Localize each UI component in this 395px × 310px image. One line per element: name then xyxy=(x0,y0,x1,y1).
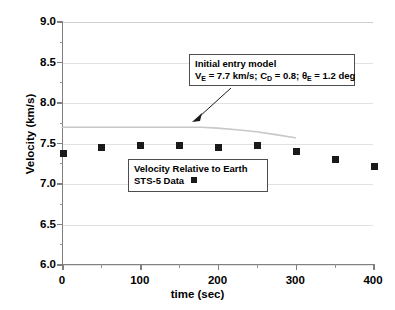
y-tick-label: 6.5 xyxy=(10,218,56,230)
x-tick-label: 300 xyxy=(265,274,325,286)
y-tick-minor xyxy=(60,163,64,164)
data-point xyxy=(215,144,222,151)
gridline-y xyxy=(63,103,373,104)
y-tick xyxy=(57,21,63,23)
data-point xyxy=(60,150,67,157)
y-tick-label: 6.0 xyxy=(10,258,56,270)
y-tick-label: 9.0 xyxy=(10,15,56,27)
data-point xyxy=(176,142,183,149)
x-axis-title: time (sec) xyxy=(0,288,395,300)
x-tick xyxy=(140,264,142,270)
legend-series-row: STS-5 Data xyxy=(134,175,262,187)
chart-figure: 6.06.57.07.58.08.59.0 0100200300400 Velo… xyxy=(0,0,395,310)
v-subscript: E xyxy=(201,75,206,82)
y-tick-minor xyxy=(60,42,64,43)
legend-series-label: STS-5 Data xyxy=(134,175,184,186)
y-tick-minor xyxy=(60,244,64,245)
callout-heading: Initial entry model xyxy=(195,58,349,70)
callout-formula: VE = 7.7 km/s; CD = 0.8; θE = 1.2 deg xyxy=(195,70,349,83)
x-tick-label: 400 xyxy=(343,274,395,286)
y-tick xyxy=(57,143,63,145)
x-tick-minor xyxy=(101,264,102,268)
x-tick xyxy=(62,264,64,270)
x-tick-minor xyxy=(257,264,258,268)
x-tick-label: 100 xyxy=(110,274,170,286)
x-tick-label: 200 xyxy=(188,274,248,286)
data-point xyxy=(254,142,261,149)
initial-entry-model-callout: Initial entry model VE = 7.7 km/s; CD = … xyxy=(189,54,355,86)
y-tick-minor xyxy=(60,204,64,205)
x-tick xyxy=(373,264,375,270)
theta-subscript: E xyxy=(307,75,312,82)
legend-title: Velocity Relative to Earth xyxy=(134,163,262,175)
cd-subscript: D xyxy=(267,75,272,82)
y-tick xyxy=(57,62,63,64)
data-point xyxy=(293,148,300,155)
legend-box: Velocity Relative to Earth STS-5 Data xyxy=(128,159,268,192)
data-point xyxy=(332,156,339,163)
data-point xyxy=(137,142,144,149)
x-tick xyxy=(218,264,220,270)
x-tick xyxy=(296,264,298,270)
theta-value: = 1.2 deg xyxy=(312,70,356,81)
x-tick-minor xyxy=(179,264,180,268)
legend-square-marker xyxy=(191,177,197,183)
y-axis-title: Velocity (km/s) xyxy=(24,54,36,214)
y-tick-minor xyxy=(60,123,64,124)
gridline-y xyxy=(63,22,373,23)
y-tick xyxy=(57,183,63,185)
y-tick-minor xyxy=(60,82,64,83)
y-tick xyxy=(57,102,63,104)
v-value: = 7.7 km/s; C xyxy=(206,70,267,81)
data-point xyxy=(98,144,105,151)
data-point xyxy=(371,163,378,170)
y-tick xyxy=(57,224,63,226)
cd-value: = 0.8; xyxy=(272,70,302,81)
gridline-y xyxy=(63,225,373,226)
x-tick-label: 0 xyxy=(32,274,92,286)
x-tick-minor xyxy=(335,264,336,268)
